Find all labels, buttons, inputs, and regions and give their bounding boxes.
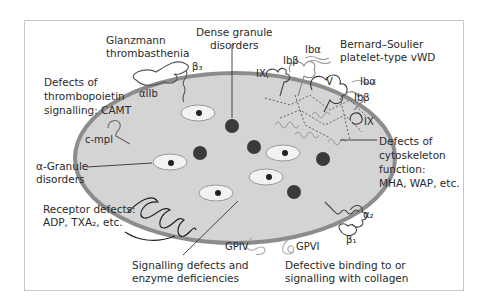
label-thrombopoietin: Defects of thrombopoietin signalling: CA… [44,75,131,117]
label-cytoskeleton: Defects of cytoskeleton function: MHA, W… [379,134,460,190]
label-beta3: β₃ [192,60,202,73]
label-alpha-iib: αIIb [139,87,158,100]
label-ib-beta-top: Ibβ [283,54,299,67]
label-ib-alpha-top: Ibα [305,43,321,56]
label-bernard-soulier: Bernard–Soulier platelet-type vWD [340,38,435,64]
label-beta1: β₁ [346,233,356,246]
label-ib-alpha-right: Ibα [360,75,376,88]
label-v: V [326,75,333,88]
label-ix-right: IX [364,115,374,128]
label-signalling: Signalling defects and enzyme deficienci… [132,259,248,285]
label-c-mpl: c-mpl [85,133,113,146]
label-gpiv: GPIV [225,240,249,253]
label-alpha-granule: α-Granule disorders [36,160,88,186]
gpvi-receptor [283,240,294,254]
label-dense-granule: Dense granule disorders [196,26,273,52]
label-gpvi: GPVI [296,240,320,253]
label-ib-beta-right: Ibβ [354,91,370,104]
label-glanzmann: Glanzmann thrombasthenia [106,34,189,60]
label-receptor-defects: Receptor defects: ADP, TXA₂, etc. [43,203,136,229]
label-alpha2: α₂ [363,208,374,221]
label-collagen: Defective binding to or signalling with … [285,259,408,285]
label-ix-left: IX [256,67,266,80]
